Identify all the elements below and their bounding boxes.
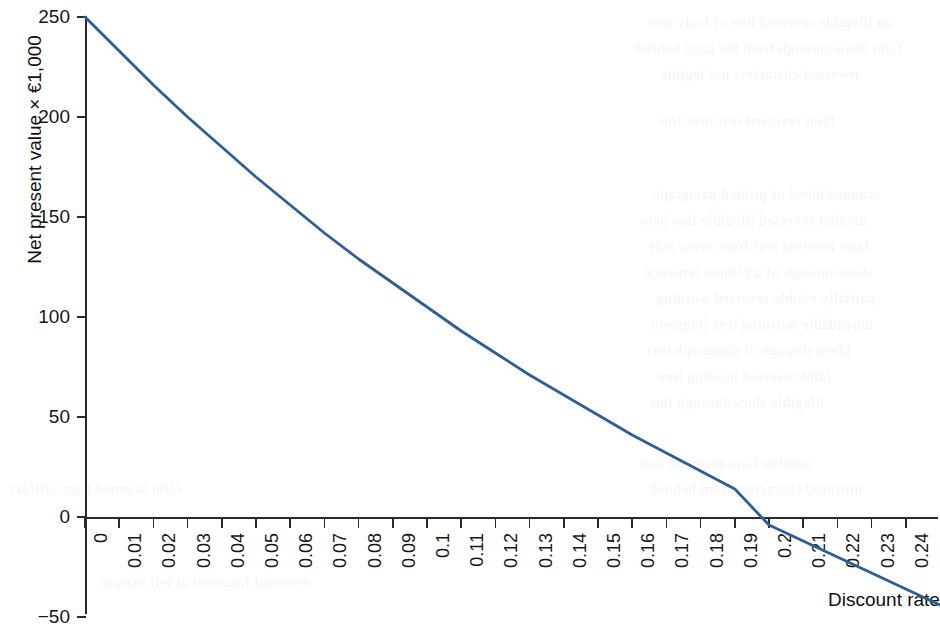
npv-curve [85, 17, 940, 605]
